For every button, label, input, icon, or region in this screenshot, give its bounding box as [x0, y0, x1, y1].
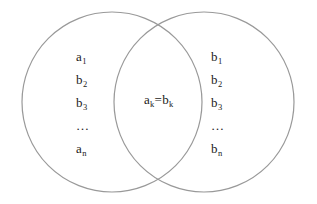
subscript: 1 [218, 56, 222, 66]
subscript: n [82, 148, 86, 158]
intersection-right-term: b [162, 92, 169, 107]
subscript: k [150, 99, 154, 109]
intersection-left-term: a [144, 92, 150, 107]
left-set-ellipsis: … [76, 119, 89, 132]
right-set-item: b2 [211, 73, 222, 86]
right-set-item: bn [211, 142, 222, 155]
intersection-equation: ak=bk [0, 93, 317, 106]
subscript: 2 [83, 79, 87, 89]
right-set-item: b1 [211, 50, 222, 63]
subscript: 2 [218, 79, 222, 89]
subscript: k [169, 99, 173, 109]
left-set-item: an [76, 142, 86, 155]
venn-diagram-figure: a1 b2 b3 … an b1 b2 b3 … bn ak=bk [0, 0, 317, 204]
left-set-item: b2 [76, 73, 87, 86]
left-set-item: a1 [76, 50, 86, 63]
right-set-ellipsis: … [211, 119, 224, 132]
subscript: 1 [82, 56, 86, 66]
subscript: n [218, 148, 222, 158]
